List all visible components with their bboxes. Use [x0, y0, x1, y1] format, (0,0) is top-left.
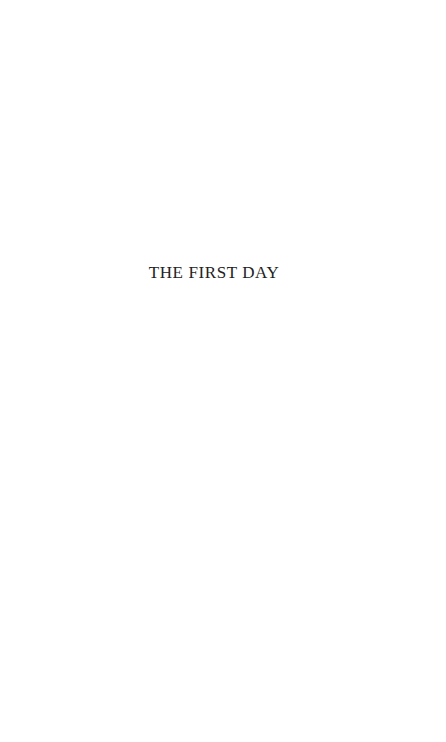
book-page: THE FIRST DAY — [0, 0, 446, 742]
section-title: THE FIRST DAY — [143, 262, 285, 284]
